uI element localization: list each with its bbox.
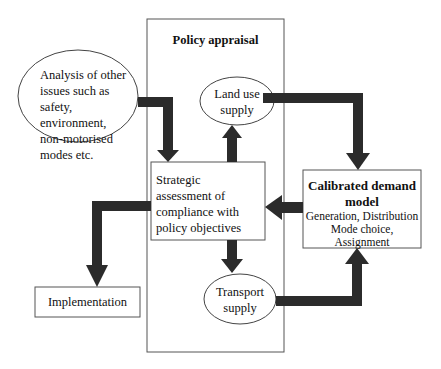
analysis-line-3: safety, environment,: [40, 99, 140, 131]
land-use-line-1: Land use: [202, 86, 272, 102]
calibrated-line-2: Mode choice,: [303, 223, 421, 236]
land-use-label: Land use supply: [202, 86, 272, 118]
arrow-strategic-to-implementation: [86, 201, 151, 287]
strategic-label: Strategic assessment of compliance with …: [156, 172, 264, 236]
policy-appraisal-title: Policy appraisal: [150, 32, 281, 48]
strategic-line-1: Strategic: [156, 172, 264, 188]
arrow-landuse-to-calibrated: [263, 93, 370, 170]
analysis-line-2: issues such as: [40, 83, 140, 99]
strategic-line-4: policy objectives: [156, 220, 264, 236]
analysis-line-5: modes etc.: [40, 147, 140, 163]
calibrated-line-1: Generation, Distribution: [303, 210, 421, 223]
strategic-line-3: compliance with: [156, 204, 264, 220]
arrow-analysis-to-strategic: [138, 97, 179, 162]
arrow-strategic-to-transport: [221, 240, 243, 273]
land-use-line-2: supply: [202, 102, 272, 118]
transport-line-1: Transport: [205, 284, 275, 300]
calibrated-title-2: model: [303, 194, 421, 210]
transport-line-2: supply: [205, 300, 275, 316]
calibrated-line-3: Assignment: [303, 236, 421, 249]
arrow-strategic-to-landuse: [222, 125, 242, 162]
analysis-label: Analysis of other issues such as safety,…: [40, 67, 140, 163]
analysis-line-4: non-motorised: [40, 131, 140, 147]
calibrated-title-1: Calibrated demand: [303, 178, 421, 194]
transport-label: Transport supply: [205, 284, 275, 316]
implementation-label: Implementation: [35, 294, 140, 310]
calibrated-label: Calibrated demand model Generation, Dist…: [303, 178, 421, 249]
analysis-line-1: Analysis of other: [40, 67, 140, 83]
strategic-line-2: assessment of: [156, 188, 264, 204]
arrow-transport-to-calibrated: [276, 248, 369, 306]
